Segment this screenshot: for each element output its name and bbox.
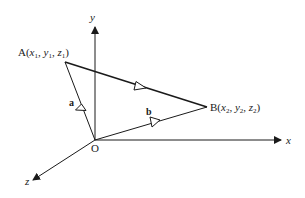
- z-axis: [33, 140, 95, 180]
- vector-b-label: b: [146, 106, 152, 117]
- vector-ab-arrowhead-icon: [134, 82, 146, 91]
- x-axis-label: x: [285, 134, 291, 146]
- z-axis-label: z: [24, 175, 30, 187]
- vector-a-label: a: [69, 97, 74, 108]
- point-b-label: B(x2, y2, z2): [210, 101, 261, 115]
- vector-a-arrowhead-icon: [76, 104, 87, 111]
- y-axis-label: y: [89, 11, 95, 23]
- origin-label: O: [91, 142, 99, 154]
- point-a-label: A(x1, y1, z1): [18, 46, 69, 60]
- vector-diagram: y x z O a b A(x1, y1, z1) B(x2, y2, z2): [0, 0, 305, 198]
- vector-b-arrowhead-icon: [150, 117, 160, 127]
